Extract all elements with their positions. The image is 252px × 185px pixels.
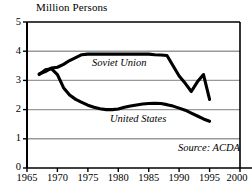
x-tick-1970: 1970 [42,172,72,183]
plot-canvas [0,0,252,185]
x-tick-1980: 1980 [103,172,133,183]
y-tick-1: 1 [5,132,21,143]
x-tick-1975: 1975 [73,172,103,183]
y-tick-0: 0 [5,161,21,172]
x-tick-1995: 1995 [195,172,225,183]
source-note: Source: ACDA [178,142,240,153]
x-tick-1990: 1990 [164,172,194,183]
y-tick-3: 3 [5,74,21,85]
x-tick-2000: 2000 [222,172,252,183]
chart-figure: Million Persons [0,0,252,185]
y-tick-5: 5 [5,16,21,27]
y-tick-4: 4 [5,45,21,56]
x-tick-1965: 1965 [12,172,42,183]
x-tick-1985: 1985 [134,172,164,183]
series-label-soviet-union: Soviet Union [92,57,147,68]
y-tick-2: 2 [5,103,21,114]
series-label-united-states: United States [110,113,166,124]
